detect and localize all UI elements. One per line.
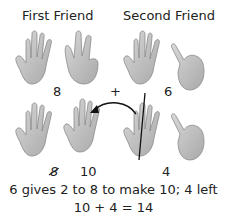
caption-line-1: 6 gives 2 to 8 to make 10; 4 left (0, 182, 227, 197)
struck-value: 8 (50, 164, 58, 179)
caption-line-2: 10 + 4 = 14 (0, 200, 227, 215)
new-first-value: 10 (80, 164, 97, 179)
remaining-value: 4 (162, 164, 170, 179)
